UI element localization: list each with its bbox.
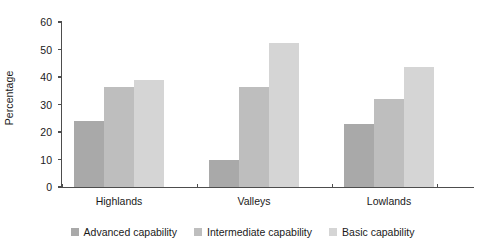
legend: Advanced capabilityIntermediate capabili… — [0, 226, 485, 238]
legend-item[interactable]: Basic capability — [329, 226, 414, 238]
bar[interactable] — [344, 124, 374, 187]
y-axis-tick-label: 10 — [26, 153, 52, 167]
bar-group: Highlands — [74, 22, 179, 187]
y-axis-tick-label: 30 — [26, 98, 52, 112]
y-axis-tick-mark — [58, 104, 62, 105]
bar[interactable] — [239, 87, 269, 187]
y-axis-tick-mark — [58, 21, 62, 22]
y-axis-tick-label: 20 — [26, 125, 52, 139]
legend-item[interactable]: Intermediate capability — [194, 226, 312, 238]
x-axis-category-label: Highlands — [74, 195, 164, 207]
y-axis-tick-mark — [58, 131, 62, 132]
bar[interactable] — [74, 121, 104, 187]
x-axis-line — [61, 187, 474, 188]
x-axis-category-label: Lowlands — [344, 195, 434, 207]
legend-label: Basic capability — [342, 226, 414, 238]
bar[interactable] — [404, 67, 434, 187]
y-axis-tick-label: 50 — [26, 43, 52, 57]
y-axis-tick-mark — [58, 76, 62, 77]
legend-item[interactable]: Advanced capability — [71, 226, 177, 238]
legend-swatch-icon — [329, 228, 337, 236]
bar[interactable] — [269, 43, 299, 187]
bar[interactable] — [209, 160, 239, 188]
bar[interactable] — [134, 80, 164, 187]
y-axis-tick-label: 40 — [26, 70, 52, 84]
x-axis-tick — [332, 184, 333, 188]
x-axis-tick — [62, 184, 63, 188]
legend-swatch-icon — [71, 228, 79, 236]
y-axis-title: Percentage — [0, 0, 18, 195]
legend-label: Intermediate capability — [207, 226, 312, 238]
plot-area: 0102030405060 HighlandsValleysLowlands — [62, 22, 474, 187]
bar-group: Valleys — [209, 22, 314, 187]
legend-label: Advanced capability — [84, 226, 177, 238]
y-axis-tick-mark — [58, 49, 62, 50]
legend-swatch-icon — [194, 228, 202, 236]
y-axis-tick-mark — [58, 159, 62, 160]
bar[interactable] — [104, 87, 134, 187]
y-axis-tick-label: 0 — [26, 180, 52, 194]
x-axis-category-label: Valleys — [209, 195, 299, 207]
bar-group: Lowlands — [344, 22, 449, 187]
x-axis-tick — [197, 184, 198, 188]
y-axis-tick-label: 60 — [26, 15, 52, 29]
bar[interactable] — [374, 99, 404, 187]
bar-chart: Percentage 0102030405060 HighlandsValley… — [0, 0, 485, 251]
y-axis-title-label: Percentage — [3, 70, 15, 125]
